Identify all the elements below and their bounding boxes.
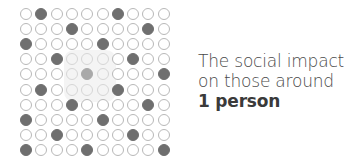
person-dot [127, 38, 139, 50]
person-dot [81, 23, 93, 35]
people-dot-grid [20, 8, 174, 158]
person-dot [142, 68, 154, 80]
person-dot [81, 38, 93, 50]
affected-person-dot [112, 84, 124, 96]
affected-person-dot [20, 38, 32, 50]
person-dot [112, 53, 124, 65]
person-dot [97, 84, 109, 96]
person-dot [20, 129, 32, 141]
person-dot [51, 114, 63, 126]
affected-person-dot [127, 129, 139, 141]
person-dot [66, 84, 78, 96]
person-dot [20, 23, 32, 35]
person-dot [51, 23, 63, 35]
person-dot [20, 84, 32, 96]
person-dot [35, 114, 47, 126]
person-dot [158, 99, 170, 111]
person-dot [97, 23, 109, 35]
person-dot [97, 68, 109, 80]
person-dot [112, 99, 124, 111]
affected-person-dot [66, 99, 78, 111]
person-dot [66, 129, 78, 141]
person-dot [81, 99, 93, 111]
person-dot [51, 99, 63, 111]
person-dot [66, 38, 78, 50]
person-dot [127, 84, 139, 96]
affected-person-dot [97, 114, 109, 126]
person-dot [142, 144, 154, 156]
person-dot [20, 99, 32, 111]
affected-person-dot [142, 99, 154, 111]
person-dot [127, 23, 139, 35]
person-dot [158, 84, 170, 96]
person-dot [81, 84, 93, 96]
person-dot [127, 114, 139, 126]
person-dot [66, 114, 78, 126]
person-dot [97, 129, 109, 141]
affected-person-dot [20, 114, 32, 126]
person-dot [35, 53, 47, 65]
person-dot [97, 99, 109, 111]
affected-person-dot [142, 23, 154, 35]
caption: The social impact on those around 1 pers… [198, 51, 344, 111]
caption-line-1: The social impact [198, 51, 344, 71]
person-dot [127, 144, 139, 156]
affected-person-dot [20, 144, 32, 156]
person-dot [97, 8, 109, 20]
affected-person-dot [51, 129, 63, 141]
person-dot [158, 53, 170, 65]
person-dot [127, 99, 139, 111]
person-dot [142, 53, 154, 65]
caption-line-3: 1 person [198, 91, 344, 111]
person-dot [35, 38, 47, 50]
person-dot [35, 99, 47, 111]
person-dot [20, 8, 32, 20]
affected-person-dot [127, 53, 139, 65]
person-dot [158, 129, 170, 141]
person-dot [112, 68, 124, 80]
affected-person-dot [97, 38, 109, 50]
person-dot [97, 53, 109, 65]
person-dot [112, 114, 124, 126]
affected-person-dot [81, 144, 93, 156]
person-dot [81, 8, 93, 20]
person-dot [142, 8, 154, 20]
person-dot [35, 144, 47, 156]
affected-person-dot [158, 144, 170, 156]
person-dot [35, 129, 47, 141]
person-dot [81, 114, 93, 126]
person-dot [20, 68, 32, 80]
person-dot [112, 129, 124, 141]
affected-person-dot [35, 84, 47, 96]
person-dot [51, 8, 63, 20]
affected-person-dot [112, 8, 124, 20]
person-dot [158, 114, 170, 126]
person-dot [51, 68, 63, 80]
person-dot [112, 38, 124, 50]
person-dot [142, 38, 154, 50]
person-dot [112, 144, 124, 156]
person-dot [158, 23, 170, 35]
person-dot [158, 38, 170, 50]
person-dot [142, 114, 154, 126]
person-dot [127, 68, 139, 80]
person-dot [51, 84, 63, 96]
person-dot [35, 23, 47, 35]
person-dot [66, 144, 78, 156]
affected-person-dot [35, 8, 47, 20]
affected-person-dot [51, 53, 63, 65]
person-dot [51, 144, 63, 156]
person-dot [97, 144, 109, 156]
person-dot [81, 129, 93, 141]
person-dot [51, 38, 63, 50]
person-dot [20, 53, 32, 65]
affected-person-dot [66, 23, 78, 35]
person-dot [112, 23, 124, 35]
person-dot [127, 8, 139, 20]
caption-line-2: on those around [198, 71, 344, 91]
person-dot [158, 8, 170, 20]
affected-person-dot [158, 68, 170, 80]
person-dot [142, 129, 154, 141]
person-dot [142, 84, 154, 96]
person-dot [35, 68, 47, 80]
